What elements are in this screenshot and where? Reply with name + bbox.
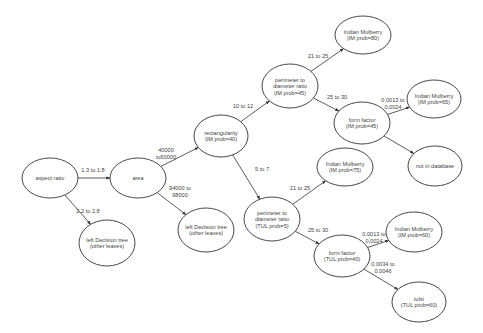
- edge-arrow-icon: [295, 231, 319, 244]
- node-label: (IM prob=75): [329, 167, 361, 173]
- node-mulberry-80: Indian Mulberry(IM prob=80): [335, 16, 391, 54]
- edge-label: 5 to 7: [255, 166, 269, 172]
- node-label: aspect ratio: [36, 175, 65, 181]
- edge-label: 0.0046: [374, 268, 391, 274]
- edge-label: 0.0024: [384, 104, 401, 110]
- edge-aspect_ratio-to-left_dt_1: 2.2 to 2.8: [65, 195, 100, 224]
- node-not-in-db: not in database: [408, 146, 462, 186]
- node-label: area: [132, 175, 144, 181]
- node-label: (IM prob=40): [205, 136, 237, 142]
- node-label: perimeter to: [257, 210, 287, 216]
- node-label: Indian Mulberry: [395, 226, 434, 232]
- edge-label: 2.2 to 2.8: [76, 208, 99, 214]
- node-aspect-ratio: aspect ratio: [22, 158, 78, 198]
- node-left-dt-1: left Decision tree(other leaves): [79, 220, 135, 266]
- node-mulberry-75: Indian Mulberry(IM prob=75): [317, 148, 373, 186]
- node-perimeter-tul: perimeter todiameter ratio(TUL prob=5): [244, 197, 300, 241]
- edge-perimeter_im-to-mulberry_80: 21 to 25: [308, 49, 344, 72]
- node-label: (TUL prob=60): [401, 302, 437, 308]
- edge-label: 25 to 30: [327, 94, 347, 100]
- edge-label: 21 to 25: [308, 53, 328, 59]
- edge-aspect_ratio-to-area: 1.3 to 1.8: [78, 167, 110, 178]
- node-label: (IM prob=60): [398, 232, 430, 238]
- edge-label: 40000: [158, 147, 174, 153]
- edge-label: 1.3 to 1.8: [81, 167, 104, 173]
- node-label: (TUL prob=5): [255, 223, 288, 229]
- edge-label: 0.0013 to: [362, 231, 385, 237]
- edge-form_factor_tul-to-tulsi: 0.0034 to0.0046: [364, 261, 398, 289]
- edge-label: 98000: [172, 192, 188, 198]
- node-label: (IM prob=65): [418, 99, 450, 105]
- edge-label: 10 to 12: [233, 103, 253, 109]
- edge-area-to-left_dt_2: 94000 to98000: [157, 185, 191, 215]
- node-label: perimeter to: [275, 77, 305, 83]
- decision-tree-diagram: 1.3 to 1.82.2 to 2.840000to5000094000 to…: [0, 0, 483, 333]
- edge-label: 21 to 25: [290, 185, 310, 191]
- node-label: form factor: [349, 117, 376, 123]
- node-label: (IM prob=45): [274, 90, 306, 96]
- node-mulberry-65: Indian Mulberry(IM prob=65): [407, 80, 461, 118]
- node-label: Indian Mulberry: [344, 29, 383, 35]
- node-label: tulsi: [414, 296, 424, 302]
- node-label: diameter ratio: [273, 83, 307, 89]
- node-left-dt-2: left Decision tree(other leaves): [178, 208, 234, 252]
- node-label: (IM prob=80): [347, 35, 379, 41]
- edge-label: 0.0034 to: [371, 261, 394, 267]
- node-rectangularity: rectangularity(IM prob=40): [194, 115, 248, 157]
- edge-arrow-icon: [313, 98, 338, 111]
- node-label: rectangularity: [204, 130, 238, 136]
- edge-arrow-icon: [233, 155, 260, 199]
- node-label: left Decision tree: [86, 237, 128, 243]
- node-form-factor-tul: form factor(TUL prob=40): [314, 235, 370, 277]
- edge-rectangularity-to-perimeter_tul: 5 to 7: [233, 155, 269, 199]
- node-area: area: [110, 158, 166, 198]
- edge-perimeter_tul-to-mulberry_75: 21 to 25: [290, 181, 326, 204]
- node-form-factor-im: form factor(IM prob=45): [334, 102, 390, 144]
- node-label: (other leaves): [189, 230, 223, 236]
- node-label: diameter ratio: [255, 216, 289, 222]
- edge-label: 94000 to: [169, 185, 191, 191]
- edge-label: to50000: [156, 154, 176, 160]
- node-label: Indian Mulberry: [326, 161, 365, 167]
- node-label: left Decision tree: [185, 224, 227, 230]
- node-label: (TUL prob=40): [324, 256, 360, 262]
- edge-area-to-rectangularity: 40000to50000: [156, 147, 198, 166]
- node-tulsi: tulsi(TUL prob=60): [392, 282, 446, 322]
- node-label: not in database: [416, 163, 454, 169]
- node-label: (other leaves): [90, 243, 124, 249]
- edge-rectangularity-to-perimeter_im: 10 to 12: [233, 101, 270, 122]
- edge-label: 0.0013 to: [381, 97, 404, 103]
- node-mulberry-60: Indian Mulberry(IM prob=60): [386, 212, 442, 252]
- node-label: (IM prob=45): [346, 123, 378, 129]
- edge-label: 25 to 30: [308, 227, 328, 233]
- edge-label: 0.0024: [365, 238, 382, 244]
- node-perimeter-im: perimeter todiameter ratio(IM prob=45): [262, 64, 318, 108]
- node-label: form factor: [329, 250, 356, 256]
- node-label: Indian Mulberry: [415, 93, 454, 99]
- edge-form_factor_im-to-not_in_db: [384, 136, 414, 154]
- edge-arrow-icon: [384, 136, 414, 154]
